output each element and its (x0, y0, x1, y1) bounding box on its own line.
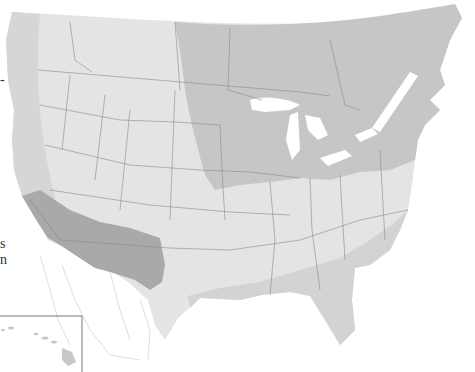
cropped-text-fragment: n (0, 252, 7, 268)
north-america-map (0, 0, 475, 372)
cropped-text-fragment: s (0, 236, 5, 252)
cropped-text-fragment: - (0, 72, 5, 88)
northern-east-zone (175, 4, 462, 190)
